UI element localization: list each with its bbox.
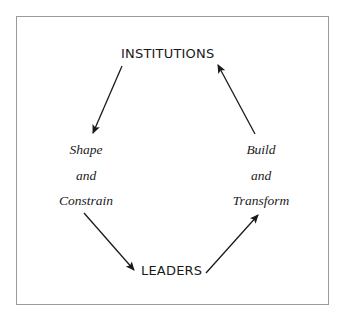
- node-institutions: INSTITUTIONS: [121, 46, 214, 61]
- label-and-right: and: [231, 168, 291, 184]
- arrow-constrain-to-leaders: [84, 213, 134, 270]
- arrow-leaders-to-transform: [206, 215, 258, 273]
- label-and-left: and: [56, 168, 116, 184]
- arrow-build-to-institutions: [218, 65, 255, 134]
- label-build: Build: [231, 142, 291, 158]
- node-leaders: LEADERS: [141, 263, 202, 278]
- label-shape: Shape: [56, 142, 116, 158]
- label-transform: Transform: [231, 193, 291, 209]
- arrow-institutions-to-shape: [93, 66, 122, 133]
- label-constrain: Constrain: [56, 193, 116, 209]
